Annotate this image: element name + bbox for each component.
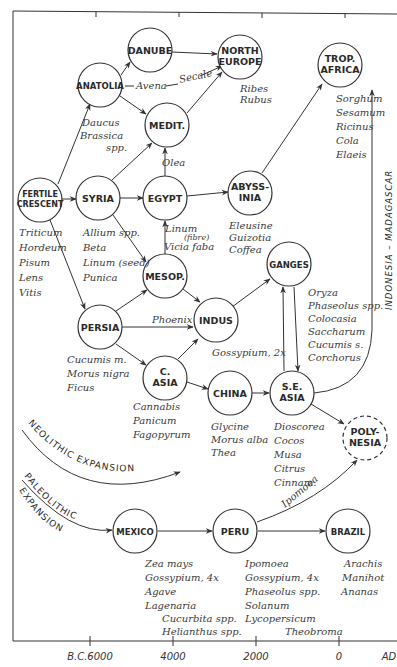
svg-text:Morus nigra: Morus nigra xyxy=(66,368,130,379)
svg-text:Elaeis: Elaeis xyxy=(335,149,367,160)
node-mesop[interactable]: MESOP. xyxy=(143,254,187,298)
node-egypt[interactable]: EGYPT xyxy=(143,176,187,220)
node-persia[interactable]: PERSIA xyxy=(78,305,122,349)
svg-text:0: 0 xyxy=(336,651,342,662)
svg-text:Ipomoea: Ipomoea xyxy=(244,558,289,569)
node-anatolia[interactable]: ANATOLIA xyxy=(76,63,124,107)
svg-text:Zea mays: Zea mays xyxy=(144,558,193,569)
svg-text:EGYPT: EGYPT xyxy=(148,193,183,204)
svg-text:Olea: Olea xyxy=(162,157,185,168)
svg-text:Cannabis: Cannabis xyxy=(133,401,180,412)
node-abyssinia[interactable]: ABYSS- INIA xyxy=(228,171,272,215)
svg-text:NEOLITHIC EXPANSION: NEOLITHIC EXPANSION xyxy=(27,418,136,474)
svg-text:Daucus: Daucus xyxy=(81,117,120,128)
crops-abyssinia: Eleusine Guizotia Coffea xyxy=(228,220,273,255)
svg-text:2000: 2000 xyxy=(243,651,268,662)
svg-text:Gossypium, 4x: Gossypium, 4x xyxy=(145,572,219,583)
svg-text:NORTH: NORTH xyxy=(221,45,258,56)
svg-text:DANUBE: DANUBE xyxy=(128,45,173,56)
svg-text:Saccharum: Saccharum xyxy=(308,326,365,337)
svg-text:PERU: PERU xyxy=(221,526,249,537)
svg-text:MEDIT.: MEDIT. xyxy=(149,120,185,131)
crops-brazil: Arachis Manihot Ananas xyxy=(340,558,385,597)
svg-text:AFRICA: AFRICA xyxy=(320,64,360,75)
svg-text:FERTILE: FERTILE xyxy=(22,190,58,199)
svg-text:INIA: INIA xyxy=(239,192,262,203)
svg-text:Phaseolus spp.: Phaseolus spp. xyxy=(244,586,320,597)
svg-text:Panicum: Panicum xyxy=(132,415,176,426)
node-danube[interactable]: DANUBE xyxy=(128,28,173,72)
svg-text:Triticum: Triticum xyxy=(19,227,62,238)
svg-text:Ribes: Ribes xyxy=(239,83,268,94)
svg-text:Punica: Punica xyxy=(82,272,117,283)
svg-text:S.E.: S.E. xyxy=(282,381,303,392)
crops-egypt: Linum (fibre) Vicia faba xyxy=(164,223,214,252)
svg-text:C.: C. xyxy=(160,366,171,377)
svg-text:Cucumis m.: Cucumis m. xyxy=(67,354,127,365)
svg-text:Eleusine: Eleusine xyxy=(228,220,273,231)
svg-text:Cucurbita spp.: Cucurbita spp. xyxy=(162,613,237,624)
svg-text:TROP.: TROP. xyxy=(325,53,356,64)
svg-text:ASIA: ASIA xyxy=(279,392,305,403)
node-china[interactable]: CHINA xyxy=(208,371,252,415)
crops-trop-africa: Sorghum Sesamum Ricinus Cola Elaeis xyxy=(335,93,385,160)
svg-text:Lens: Lens xyxy=(18,272,43,283)
node-c-asia[interactable]: C. ASIA xyxy=(143,356,187,400)
node-peru[interactable]: PERU xyxy=(213,509,257,553)
crops-anatolia: Daucus Brassica spp. xyxy=(79,117,127,153)
svg-text:spp.: spp. xyxy=(106,142,127,153)
svg-text:Solanum: Solanum xyxy=(245,600,289,611)
svg-text:Cocos: Cocos xyxy=(274,435,304,446)
svg-text:Secale: Secale xyxy=(178,67,213,85)
svg-text:Pisum: Pisum xyxy=(18,257,50,268)
svg-text:INDUS: INDUS xyxy=(199,315,233,326)
svg-text:Arachis: Arachis xyxy=(343,558,382,569)
svg-text:Manihot: Manihot xyxy=(341,572,385,583)
svg-text:Agave: Agave xyxy=(144,586,176,597)
node-syria[interactable]: SYRIA xyxy=(76,176,120,220)
svg-text:ANATOLIA: ANATOLIA xyxy=(76,81,124,91)
crops-china: Glycine Morus alba Thea xyxy=(210,421,268,458)
node-mexico[interactable]: MEXICO xyxy=(113,509,157,553)
node-fertile-crescent[interactable]: FERTILE CRESCENT xyxy=(17,178,64,222)
crops-syria: Allium spp. Beta Linum (seed) Punica xyxy=(82,227,150,283)
svg-text:Helianthus spp.: Helianthus spp. xyxy=(161,626,242,637)
svg-text:CHINA: CHINA xyxy=(213,388,247,399)
node-trop-africa[interactable]: TROP. AFRICA xyxy=(318,43,362,87)
crops-indus: Gossypium, 2x xyxy=(212,347,286,358)
svg-text:Lagenaria: Lagenaria xyxy=(144,600,196,611)
node-brazil[interactable]: BRAZIL xyxy=(326,509,370,553)
node-se-asia[interactable]: S.E. ASIA xyxy=(270,371,314,415)
node-ganges[interactable]: GANGES xyxy=(267,242,311,286)
svg-text:INDONESIA – MADAGASCAR: INDONESIA – MADAGASCAR xyxy=(384,170,394,310)
svg-text:Theobroma: Theobroma xyxy=(285,626,343,637)
svg-text:GANGES: GANGES xyxy=(269,260,309,270)
svg-text:Sorghum: Sorghum xyxy=(336,93,382,104)
svg-text:B.C.6000: B.C.6000 xyxy=(67,651,113,662)
crops-fertile-crescent: Triticum Hordeum Pisum Lens Vitis xyxy=(18,227,67,298)
crops-persia: Cucumis m. Morus nigra Ficus xyxy=(66,354,130,393)
crops-north-europe: Ribes Rubus xyxy=(239,83,272,105)
svg-text:Guizotia: Guizotia xyxy=(229,232,271,243)
svg-text:CRESCENT: CRESCENT xyxy=(17,200,64,209)
svg-text:EUROPE: EUROPE xyxy=(218,56,261,67)
svg-text:Ficus: Ficus xyxy=(66,382,94,393)
time-axis: B.C.6000 4000 2000 0 AD xyxy=(67,651,396,662)
svg-text:Dioscorea: Dioscorea xyxy=(273,421,325,432)
node-indus[interactable]: INDUS xyxy=(194,298,238,342)
svg-text:4000: 4000 xyxy=(160,651,185,662)
svg-text:Rubus: Rubus xyxy=(239,94,272,105)
crops-mexico: Zea mays Gossypium, 4x Agave Lagenaria C… xyxy=(144,558,242,637)
svg-text:Phaseolus spp.: Phaseolus spp. xyxy=(307,300,383,311)
svg-text:ASIA: ASIA xyxy=(152,377,178,388)
svg-text:Ananas: Ananas xyxy=(340,586,378,597)
node-polynesia[interactable]: POLY- NESIA xyxy=(343,416,387,460)
svg-text:AD: AD xyxy=(381,651,397,662)
svg-text:MESOP.: MESOP. xyxy=(145,271,185,282)
svg-text:Fagopyrum: Fagopyrum xyxy=(132,429,190,440)
svg-text:Oryza: Oryza xyxy=(308,287,338,298)
node-medit[interactable]: MEDIT. xyxy=(145,103,189,147)
svg-text:Linum (seed): Linum (seed) xyxy=(82,257,150,268)
crops-c-asia: Cannabis Panicum Fagopyrum xyxy=(132,401,190,440)
node-north-europe[interactable]: NORTH EUROPE xyxy=(218,35,262,79)
